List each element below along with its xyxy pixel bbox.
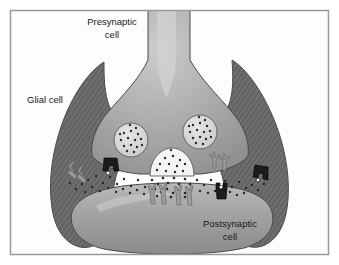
glial-label-line1: Glial cell bbox=[27, 94, 63, 105]
label-glial: Glial cell bbox=[27, 94, 63, 105]
synaptic-vesicle bbox=[183, 115, 217, 149]
presynaptic-label-line2: cell bbox=[105, 29, 119, 40]
synaptic-vesicle bbox=[114, 123, 148, 157]
postsynaptic-label-line2: cell bbox=[223, 231, 237, 242]
vesicle-right-membrane bbox=[183, 115, 217, 149]
presynaptic-label-line1: Presynaptic bbox=[87, 16, 137, 27]
vesicle-left-membrane bbox=[114, 123, 148, 157]
postsynaptic-label-line1: Postsynaptic bbox=[203, 218, 257, 229]
synapse-figure: Presynaptic cell Glial cell Postsynaptic… bbox=[0, 0, 339, 265]
synapse-diagram: Presynaptic cell Glial cell Postsynaptic… bbox=[0, 0, 339, 265]
diagram-content: Presynaptic cell Glial cell Postsynaptic… bbox=[10, 8, 329, 255]
